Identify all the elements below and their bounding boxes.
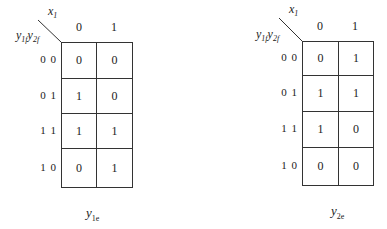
column-header: 1	[345, 19, 365, 34]
map-title: y2e	[331, 203, 344, 221]
cell: 0	[339, 148, 374, 186]
row-header: 1 0	[268, 159, 298, 171]
cell: 0	[303, 42, 339, 76]
column-header: 0	[310, 19, 330, 34]
cell: 0	[303, 148, 339, 186]
row-header: 1 1	[268, 122, 298, 134]
column-variable: x1	[289, 2, 298, 18]
row-header: 0 0	[268, 51, 298, 63]
cell: 1	[303, 112, 339, 148]
cell: 0	[339, 112, 374, 148]
kmap-grid: 0 1 1 1 1 0 0 0	[302, 41, 374, 186]
row-header: 0 1	[268, 86, 298, 98]
cell: 1	[303, 76, 339, 112]
cell: 1	[339, 76, 374, 112]
row-variables: y1fy2f	[256, 27, 279, 43]
cell: 1	[339, 42, 374, 76]
